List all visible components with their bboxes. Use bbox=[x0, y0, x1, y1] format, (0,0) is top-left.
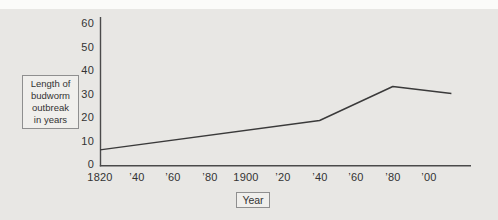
x-axis-title: Year bbox=[242, 194, 263, 206]
budworm-outbreak-figure: 60 50 40 30 20 10 0 1820 ’40 ’60 ’80 190… bbox=[0, 0, 498, 220]
x-axis-title-box: Year bbox=[236, 192, 270, 208]
y-axis-title-line: Length of bbox=[31, 78, 71, 90]
y-axis-title-line: in years bbox=[34, 114, 67, 126]
y-axis-title-line: outbreak bbox=[32, 102, 69, 114]
y-tick-label: 50 bbox=[60, 41, 94, 53]
y-axis-title-line: budworm bbox=[31, 90, 70, 102]
y-tick-label: 10 bbox=[60, 135, 94, 147]
y-axis-title-box: Length of budworm outbreak in years bbox=[22, 75, 79, 129]
y-tick-label: 60 bbox=[60, 17, 94, 29]
y-tick-label: 0 bbox=[60, 158, 94, 170]
x-tick-label: ’00 bbox=[404, 171, 454, 183]
outbreak-line bbox=[100, 87, 451, 150]
